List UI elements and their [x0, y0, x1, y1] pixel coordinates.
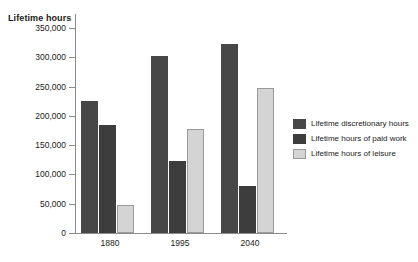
y-axis-tick-label: 50,000 — [40, 199, 66, 209]
bar — [187, 129, 204, 233]
y-axis-tick — [69, 233, 75, 234]
bar — [117, 205, 134, 233]
y-axis-title: Lifetime hours — [8, 13, 71, 23]
bar — [257, 88, 274, 233]
y-axis-tick-label: 100,000 — [35, 169, 66, 179]
bar — [221, 44, 238, 233]
bar — [151, 56, 168, 233]
plot-area — [75, 28, 285, 233]
bar — [81, 101, 98, 233]
x-axis-tick-label: 2040 — [220, 238, 280, 248]
bar-chart: Lifetime hours 050,000100,000150,000200,… — [0, 0, 418, 262]
x-axis-line — [75, 233, 287, 234]
chart-legend: Lifetime discretionary hoursLifetime hou… — [293, 118, 417, 163]
bar — [239, 186, 256, 233]
x-axis-tick-label: 1880 — [80, 238, 140, 248]
legend-item-label: Lifetime hours of paid work — [311, 134, 407, 144]
y-axis-tick-label: 150,000 — [35, 140, 66, 150]
x-axis-tick-label: 1995 — [150, 238, 210, 248]
y-axis-tick-label: 300,000 — [35, 52, 66, 62]
legend-item[interactable]: Lifetime discretionary hours — [293, 118, 417, 129]
y-axis-tick-label: 250,000 — [35, 82, 66, 92]
legend-item[interactable]: Lifetime hours of paid work — [293, 133, 417, 144]
y-axis-tick-label: 200,000 — [35, 111, 66, 121]
bar — [169, 161, 186, 233]
legend-item[interactable]: Lifetime hours of leisure — [293, 148, 417, 159]
y-axis-tick-label: 0 — [61, 228, 66, 238]
legend-item-label: Lifetime hours of leisure — [311, 149, 396, 159]
legend-swatch-icon — [293, 149, 306, 159]
y-axis-tick-label: 350,000 — [35, 23, 66, 33]
legend-swatch-icon — [293, 119, 306, 129]
legend-swatch-icon — [293, 134, 306, 144]
bar — [99, 125, 116, 233]
legend-item-label: Lifetime discretionary hours — [311, 119, 409, 129]
